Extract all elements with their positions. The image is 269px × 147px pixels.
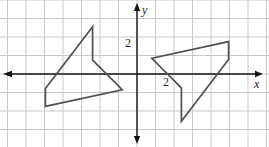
y-axis-label: y <box>141 3 148 17</box>
axes <box>3 3 263 144</box>
coordinate-plane-canvas: y x 2 2 <box>0 0 269 147</box>
coordinate-plane-figure: y x 2 2 <box>0 0 269 147</box>
x-axis-tick-label-2: 2 <box>163 75 169 89</box>
left-pentagon <box>45 27 122 107</box>
y-axis-top-arrowhead-icon <box>134 3 140 11</box>
y-axis-bottom-arrowhead-icon <box>134 136 140 144</box>
y-axis-tick-label-2: 2 <box>125 36 131 50</box>
x-axis-label: x <box>253 77 260 91</box>
